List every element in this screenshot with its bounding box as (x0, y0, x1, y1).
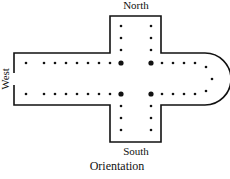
nave-column (87, 62, 90, 65)
transept-column (120, 129, 123, 132)
nave-column (109, 93, 112, 96)
transept-column (120, 49, 123, 52)
chancel-column (183, 93, 186, 96)
transept-column (120, 37, 123, 40)
transept-column (120, 105, 123, 108)
chancel-column (172, 62, 175, 65)
north-label: North (123, 0, 149, 11)
apse-column (205, 90, 208, 93)
caption: Orientation (90, 159, 145, 173)
south-label: South (123, 145, 149, 157)
nave-column (98, 62, 101, 65)
nave-column (98, 93, 101, 96)
crossing-pier (118, 60, 123, 65)
transept-column (150, 37, 153, 40)
crossing-pier (118, 91, 123, 96)
chancel-column (194, 62, 197, 65)
nave-column (65, 93, 68, 96)
nave-column (76, 93, 79, 96)
nave-column (54, 62, 57, 65)
chancel-column (161, 93, 164, 96)
chancel-column (172, 93, 175, 96)
nave-column (109, 62, 112, 65)
nave-column (65, 62, 68, 65)
apse-column (205, 66, 208, 69)
apse-column (211, 78, 214, 81)
chancel-column (194, 93, 197, 96)
nave-column (43, 93, 46, 96)
nave-column (43, 62, 46, 65)
chancel-column (183, 62, 186, 65)
crossing-pier (148, 60, 153, 65)
transept-column (150, 117, 153, 120)
transept-column (150, 105, 153, 108)
church-plan-diagram: North South West Orientation (0, 0, 230, 179)
nave-column (76, 62, 79, 65)
transept-column (120, 117, 123, 120)
column-dots (25, 25, 214, 132)
transept-column (150, 25, 153, 28)
crossing-pier (148, 91, 153, 96)
nave-column (25, 93, 28, 96)
transept-column (150, 49, 153, 52)
nave-column (54, 93, 57, 96)
chancel-column (161, 62, 164, 65)
nave-column (87, 93, 90, 96)
transept-column (150, 129, 153, 132)
floor-plan-outline (14, 16, 230, 142)
transept-column (120, 25, 123, 28)
nave-column (25, 62, 28, 65)
west-label: West (0, 68, 11, 90)
